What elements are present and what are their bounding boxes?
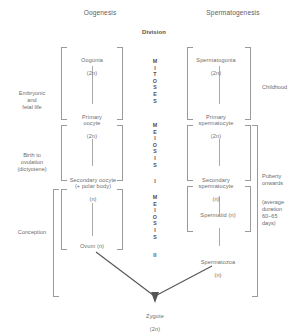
stage-zygote-name: Zygote [146,313,164,319]
stage-spermatogonia: Spermatogonia (2n) [184,50,248,76]
meiosis-two-letter-2: E [153,201,157,208]
meiosis-one-letter-3: I [154,135,156,142]
stage-spermatozoa-ploidy: (n) [214,272,221,278]
stage-oogonia: Oogonia (2n) [62,50,122,76]
meiosis-two-letter-6: I [154,227,156,234]
spermatogenesis-outer-bracket [252,125,258,297]
timeline-label-duration: (average duration 60–65 days) [262,199,306,227]
mitoses-letter-1: M [153,58,158,65]
stage-secondary-oocyte-ploidy: (n) [89,196,96,202]
meiosis-two-letter-7: S [153,234,157,241]
division-mitoses: M I T O S E S [144,58,166,104]
oogenesis-outer-bracket [53,189,59,297]
division-meiosis-two: M E I O S I S [144,194,166,240]
stage-secondary-spermatocyte-name: Secondary spermatocyte [199,177,234,190]
stage-primary-oocyte-ploidy: (2n) [87,133,97,139]
stage-zygote-ploidy: (2n) [150,326,160,332]
stage-primary-oocyte: Primary oocyte (2n) [62,107,122,140]
meiosis-two-numeral: II [144,252,166,259]
division-column-title: Division [130,29,178,35]
meiosis-one-letter-4: O [153,142,157,149]
stage-secondary-spermatocyte: Secondary spermatocyte (n) [186,170,246,203]
meiosis-one-letter-2: E [153,129,157,136]
timeline-label-childhood: Childhood [262,84,306,91]
mitoses-letter-4: O [153,78,157,85]
stage-secondary-oocyte-name: Secondary oocyte (+ polar body) [70,177,117,190]
meiosis-one-letter-6: I [154,155,156,162]
stage-oogonia-name: Oogonia [81,57,103,63]
meiosis-one-letter-7: S [153,162,157,169]
stage-secondary-oocyte: Secondary oocyte (+ polar body) (n) [56,170,130,203]
meiosis-two-letter-5: S [153,220,157,227]
mitoses-letter-7: S [153,98,157,105]
stage-spermatozoa-name: Spermatozoa [201,259,236,265]
meiosis-one-numeral: I [144,178,166,185]
spermatogenesis-connector-2 [219,139,220,166]
mitoses-letter-3: T [153,71,156,78]
timeline-label-birth-to-ovulation: Birth to ovulation (dictyotene) [4,152,60,173]
mitoses-letter-5: S [153,84,157,91]
spermatogenesis-column-title: Spermatogenesis [178,9,288,16]
stage-spermatogonia-name: Spermatogonia [196,57,235,63]
stage-secondary-spermatocyte-ploidy: (n) [212,196,219,202]
stage-oogonia-ploidy: (2n) [87,70,97,76]
meiosis-two-letter-3: I [154,207,156,214]
oogenesis-column-title: Oogenesis [55,9,145,16]
meiosis-two-letter-4: O [153,214,157,221]
stage-spermatogonia-ploidy: (2n) [211,70,221,76]
timeline-label-conception: Conception [4,229,60,236]
spermatogenesis-connector-4 [219,228,220,246]
stage-primary-spermatocyte-name: Primary spermatocyte [199,114,234,127]
stage-zygote: Zygote (2n) [125,306,185,332]
meiosis-two-letter-1: M [153,194,158,201]
stage-primary-oocyte-name: Primary oocyte [82,114,102,127]
stage-ovum: Ovum (n) [62,243,122,250]
oogenesis-connector-2 [92,139,93,166]
stage-spermatid: Spermatid (n) [186,212,250,219]
oogenesis-connector-3 [92,203,93,236]
stage-primary-spermatocyte-ploidy: (2n) [211,133,221,139]
meiosis-one-letter-1: M [153,122,158,129]
zygote-arrowhead [151,292,159,303]
stage-primary-spermatocyte: Primary spermatocyte (2n) [186,107,246,140]
division-meiosis-one: M E I O S I S [144,122,166,168]
mitoses-letter-2: I [154,65,156,72]
gametogenesis-diagram: Oogenesis Spermatogenesis Division Embry… [0,0,308,332]
mitoses-letter-6: E [153,91,157,98]
timeline-label-puberty: Puberty onwards [262,173,306,187]
meiosis-one-letter-5: S [153,148,157,155]
timeline-label-embryonic: Embryonic and fetal life [4,90,60,111]
stage-spermatozoa: Spermatozoa (n) [186,252,250,278]
